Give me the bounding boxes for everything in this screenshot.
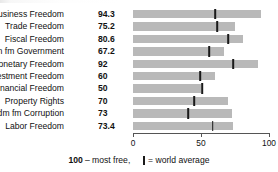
world-average-marker [217, 21, 219, 31]
x-axis: 050100 [133, 133, 269, 153]
row-plot-area [133, 107, 269, 119]
value-bar [133, 122, 233, 130]
freedom-index-bar-chart: Business Freedom94.3Trade Freedom75.2Fis… [0, 0, 278, 172]
legend-scale-value: 100 [69, 155, 83, 165]
value-bar [133, 35, 243, 43]
row-category-label: Labor Freedom [0, 120, 64, 132]
value-bar [133, 97, 228, 105]
x-axis-tick-label: 0 [131, 138, 136, 148]
row-plot-area [133, 70, 269, 82]
world-average-marker [208, 46, 210, 56]
row-value-label: 50 [98, 82, 132, 94]
world-average-marker [187, 108, 189, 118]
row-category-label: Investment Freedom [0, 70, 64, 82]
row-value-label: 73.4 [98, 120, 132, 132]
row-category-label: Financial Freedom [0, 82, 64, 94]
chart-row: Fdm fm Corruption73 [0, 107, 278, 119]
value-bar [133, 84, 201, 92]
legend-scale-text: – most free, [85, 155, 130, 165]
value-bar [133, 109, 232, 117]
row-value-label: 80.6 [98, 33, 132, 45]
row-value-label: 75.2 [98, 20, 132, 32]
row-plot-area [133, 8, 269, 20]
chart-row: Financial Freedom50 [0, 82, 278, 94]
value-bar [133, 47, 224, 55]
chart-rows: Business Freedom94.3Trade Freedom75.2Fis… [0, 8, 278, 132]
row-plot-area [133, 120, 269, 132]
chart-row: Fiscal Freedom80.6 [0, 33, 278, 45]
row-value-label: 73 [98, 107, 132, 119]
world-average-marker [193, 96, 195, 106]
row-plot-area [133, 20, 269, 32]
row-value-label: 67.2 [98, 45, 132, 57]
row-category-label: Property Rights [0, 95, 64, 107]
chart-row: Business Freedom94.3 [0, 8, 278, 20]
world-average-marker [202, 83, 204, 93]
row-value-label: 60 [98, 70, 132, 82]
row-category-label: Business Freedom [0, 8, 64, 20]
world-average-marker [214, 9, 216, 19]
top-edge-artifact [0, 0, 278, 3]
row-category-label: Monetary Freedom [0, 58, 64, 70]
world-average-marker [227, 34, 229, 44]
row-category-label: Fdm fm Government [0, 45, 64, 57]
world-average-marker [212, 121, 214, 131]
row-value-label: 70 [98, 95, 132, 107]
world-average-marker [200, 71, 202, 81]
legend-marker-label: = world average [148, 155, 209, 165]
value-bar [133, 22, 235, 30]
world-average-marker-icon [143, 156, 145, 165]
row-plot-area [133, 33, 269, 45]
value-bar [133, 10, 261, 18]
row-value-label: 94.3 [98, 8, 132, 20]
chart-row: Property Rights70 [0, 95, 278, 107]
chart-row: Investment Freedom60 [0, 70, 278, 82]
value-bar [133, 72, 215, 80]
row-plot-area [133, 58, 269, 70]
chart-row: Labor Freedom73.4 [0, 120, 278, 132]
x-axis-tick-label: 100 [262, 138, 276, 148]
world-average-marker [232, 59, 234, 69]
x-axis-tick [201, 133, 202, 137]
row-category-label: Fiscal Freedom [0, 33, 64, 45]
legend-scale-note: 100– most free, [69, 155, 131, 165]
chart-row: Fdm fm Government67.2 [0, 45, 278, 57]
value-bar [133, 60, 258, 68]
x-axis-tick-label: 50 [196, 138, 205, 148]
x-axis-tick [133, 133, 134, 137]
row-plot-area [133, 82, 269, 94]
row-category-label: Trade Freedom [0, 20, 64, 32]
row-plot-area [133, 95, 269, 107]
x-axis-tick [269, 133, 270, 137]
row-plot-area [133, 45, 269, 57]
chart-row: Monetary Freedom92 [0, 58, 278, 70]
chart-legend: 100– most free, = world average [0, 152, 278, 168]
row-category-label: Fdm fm Corruption [0, 107, 64, 119]
row-value-label: 92 [98, 58, 132, 70]
chart-row: Trade Freedom75.2 [0, 20, 278, 32]
